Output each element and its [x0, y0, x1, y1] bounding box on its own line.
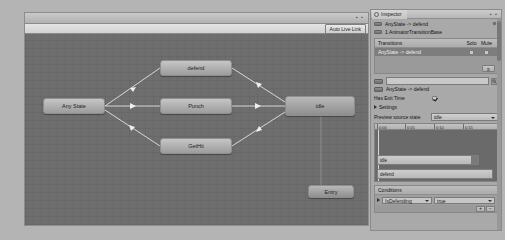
add-condition-button[interactable]: +	[476, 206, 485, 212]
preview-source-state-label: Preview source state	[374, 114, 431, 120]
condition-row[interactable]: IsDefending true	[375, 195, 497, 205]
solo-checkbox[interactable]	[469, 50, 474, 55]
transition-title: AnyState -> defend	[385, 21, 428, 27]
transition-list-empty	[375, 56, 497, 64]
timeline-clip-label: idle	[380, 158, 387, 163]
condition-drag-handle-icon[interactable]	[377, 198, 380, 202]
transition-sub-row: AnyState -> defend	[374, 86, 498, 92]
preview-source-state-dropdown[interactable]: idle	[431, 113, 498, 121]
transition-asset-icon	[374, 79, 383, 84]
conditions-box: Conditions IsDefending true + −	[374, 185, 498, 213]
transition-row-label: AnyState -> defend	[378, 49, 464, 55]
mute-column-header: Mute	[479, 40, 494, 46]
transitions-header-label: Transitions	[378, 40, 464, 46]
state-node-label: GetHit	[188, 143, 204, 149]
inspector-window: Inspector ▪ ▪ AnyState -> defend 1 Anima…	[370, 9, 502, 231]
transitions-section: Transitions Solo Mute AnyState -> defend…	[374, 38, 498, 74]
inspector-tabbar: Inspector ▪ ▪	[371, 10, 501, 19]
animator-transition-base-icon	[374, 30, 382, 34]
inspector-body: AnyState -> defend 1 AnimatorTransitionB…	[371, 19, 501, 230]
transition-sub-label: AnyState -> defend	[386, 86, 429, 92]
preview-timeline-ruler[interactable]: 0:00 0:05 0:10 0:15	[374, 123, 498, 130]
state-node-label: Punch	[188, 103, 204, 109]
transitions-header-row: Transitions Solo Mute	[375, 39, 497, 48]
conditions-footer: + −	[375, 205, 497, 212]
settings-foldout[interactable]: Settings	[374, 103, 498, 111]
inspector-scrollbar[interactable]	[497, 19, 501, 230]
auto-live-link-button[interactable]: Auto Live Link	[325, 24, 366, 34]
animator-tabstrip	[25, 24, 368, 34]
solo-column-header: Solo	[464, 40, 479, 46]
transition-name-row	[374, 77, 498, 85]
inspector-icon	[374, 12, 379, 17]
conditions-section: Conditions IsDefending true + −	[374, 185, 498, 213]
mute-checkbox[interactable]	[484, 50, 489, 55]
remove-condition-button[interactable]: −	[486, 206, 495, 212]
preview-source-state-row: Preview source state idle	[374, 113, 498, 121]
tab-inspector[interactable]: Inspector	[372, 10, 407, 19]
state-node-defend[interactable]: defend	[160, 60, 232, 76]
mute-checkbox-cell[interactable]	[479, 50, 494, 55]
state-node-entry[interactable]: Entry	[308, 185, 354, 198]
chevron-right-icon	[374, 105, 377, 109]
transition-name-input[interactable]	[386, 77, 489, 85]
screen-root: ▪ ▪ Auto Live Link	[0, 0, 505, 240]
conditions-header-label: Conditions	[378, 187, 494, 193]
state-node-label: idle	[316, 103, 325, 109]
settings-label: Settings	[379, 104, 397, 110]
timeline-clip-label: defend	[380, 172, 394, 177]
timeline-clip-idle[interactable]: idle	[377, 155, 479, 165]
condition-value-dropdown[interactable]: true	[434, 197, 495, 204]
tab-inspector-label: Inspector	[381, 11, 402, 17]
state-node-punch[interactable]: Punch	[160, 98, 232, 114]
transition-subtitle: 1 AnimatorTransitionBase	[385, 29, 442, 35]
ruler-tick-label: 0:00	[379, 125, 387, 130]
state-node-gethit[interactable]: GetHit	[160, 138, 232, 154]
scrollbar-thumb[interactable]	[497, 21, 501, 61]
state-node-any-state[interactable]: Any State	[43, 98, 105, 114]
solo-checkbox-cell[interactable]	[464, 50, 479, 55]
transitions-box: Transitions Solo Mute AnyState -> defend…	[374, 38, 498, 74]
ruler-tick-label: 0:15	[465, 125, 473, 130]
has-exit-time-checkbox[interactable]	[432, 96, 437, 101]
ruler-tick-label: 0:05	[407, 125, 415, 130]
clip-end-handle[interactable]	[471, 156, 478, 164]
preview-timeline[interactable]: idle defend	[374, 130, 498, 182]
has-exit-time-label: Has Exit Time	[374, 95, 432, 101]
transition-sub-icon	[374, 87, 383, 92]
ruler-tick-label: 0:10	[436, 125, 444, 130]
conditions-header-row: Conditions	[375, 186, 497, 195]
transition-header: AnyState -> defend	[371, 20, 501, 28]
transition-list-row[interactable]: AnyState -> defend	[375, 48, 497, 56]
transition-subheader: 1 AnimatorTransitionBase	[371, 28, 501, 36]
state-node-label: defend	[188, 65, 205, 71]
window-menu-icon[interactable]: ▪ ▪	[356, 15, 364, 20]
animator-window: ▪ ▪ Auto Live Link	[24, 12, 369, 226]
animator-titlebar: ▪ ▪	[25, 13, 368, 24]
state-node-label: Any State	[62, 103, 86, 109]
state-node-label: Entry	[325, 189, 338, 195]
animator-graph-canvas[interactable]: Any State defend Punch GetHit idle Entry	[25, 34, 368, 225]
state-node-idle[interactable]: idle	[285, 96, 355, 116]
transitions-menu-button[interactable]: ≡	[482, 65, 495, 72]
timeline-clip-defend[interactable]: defend	[377, 169, 493, 179]
has-exit-time-row: Has Exit Time	[374, 94, 498, 102]
condition-parameter-dropdown[interactable]: IsDefending	[382, 197, 432, 204]
transition-icon	[374, 22, 382, 26]
inspector-lock-icon[interactable]: ▪ ▪	[490, 12, 498, 17]
